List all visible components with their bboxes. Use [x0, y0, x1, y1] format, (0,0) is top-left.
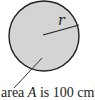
circle-diagram: r area A is 100 cm2 [0, 0, 95, 100]
area-prefix: area [1, 85, 28, 100]
area-label: area A is 100 cm2 [1, 85, 95, 100]
circle-shape [9, 1, 79, 71]
area-value: is 100 cm [36, 85, 94, 100]
radius-label: r [58, 12, 65, 28]
area-unit-exponent: 2 [94, 83, 95, 93]
